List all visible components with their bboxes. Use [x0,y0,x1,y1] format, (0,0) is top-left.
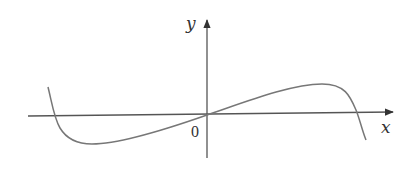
y-axis-label: y [185,13,196,33]
function-graph: y x 0 [0,0,419,170]
origin-label: 0 [191,123,199,140]
x-axis-label: x [381,117,391,137]
